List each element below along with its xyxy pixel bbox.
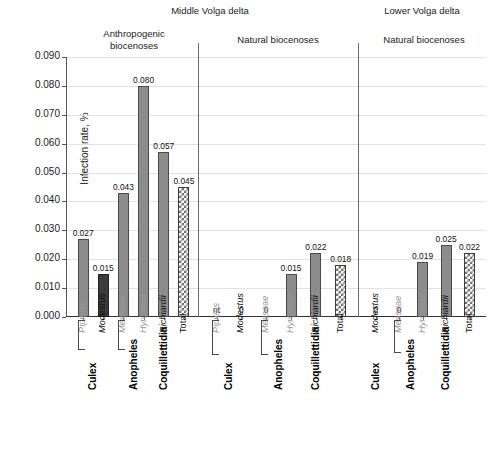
plot-area: Infection rate, % 0.0000.0100.0200.0300.… bbox=[66, 57, 486, 317]
genus-label: Culex bbox=[370, 363, 381, 390]
y-tick-label: 0.020 bbox=[35, 252, 60, 263]
y-tick-mark bbox=[62, 317, 66, 318]
genus-bracket bbox=[394, 320, 401, 353]
bar-value-label: 0.057 bbox=[153, 141, 174, 151]
genus-label: Coquillettidia bbox=[440, 327, 451, 390]
panel-title-line-1: Anthropogenic bbox=[78, 28, 190, 40]
bar-value-label: 0.015 bbox=[281, 263, 302, 273]
bar-value-label: 0.019 bbox=[412, 251, 433, 261]
gridline bbox=[67, 173, 486, 174]
genus-label: Culex bbox=[223, 363, 234, 390]
y-tick-label: 0.000 bbox=[35, 310, 60, 321]
genus-label: Coquillettidia bbox=[158, 327, 169, 390]
y-tick-label: 0.090 bbox=[35, 50, 60, 61]
y-tick-mark bbox=[62, 115, 66, 116]
x-category-label: Total bbox=[178, 314, 188, 333]
y-tick-label: 0.060 bbox=[35, 137, 60, 148]
gridline bbox=[67, 230, 486, 231]
x-category-label: Hyrcanus bbox=[285, 294, 295, 333]
x-category-label: Total bbox=[464, 314, 474, 333]
gridline bbox=[67, 115, 486, 116]
genus-label: Culex bbox=[87, 363, 98, 390]
gridline bbox=[67, 144, 486, 145]
y-tick-mark bbox=[62, 86, 66, 87]
panel-title-natural-biocenoses-lower: Natural biocenoses bbox=[362, 34, 486, 46]
bar-value-label: 0.022 bbox=[459, 242, 480, 252]
bar-value-label: 0.018 bbox=[330, 254, 351, 264]
bar-value-label: 0.045 bbox=[173, 176, 194, 186]
y-tick-label: 0.050 bbox=[35, 166, 60, 177]
gridline bbox=[67, 57, 486, 58]
genus-bracket bbox=[261, 320, 268, 355]
x-category-label: Modestus bbox=[235, 293, 245, 333]
bar-value-label: 0.027 bbox=[73, 228, 94, 238]
y-axis-title: Infection rate, % bbox=[79, 79, 90, 219]
bar: 0.057 bbox=[158, 152, 169, 317]
bar-value-label: 0.025 bbox=[436, 234, 457, 244]
x-category-label: Modestus bbox=[97, 293, 107, 333]
genus-label: Anopheles bbox=[273, 339, 284, 390]
region-title-lower-volga-delta: Lower Volga delta bbox=[358, 5, 486, 16]
infection-rate-bar-chart-figure: Middle Volga delta Lower Volga delta Ant… bbox=[0, 0, 492, 456]
x-category-label: Modestus bbox=[370, 293, 380, 333]
bar-value-label: 0.043 bbox=[113, 182, 134, 192]
y-tick-label: 0.040 bbox=[35, 194, 60, 205]
genus-label: Anopheles bbox=[405, 339, 416, 390]
x-category-label: Hyrcanus bbox=[138, 294, 148, 333]
y-tick-mark bbox=[62, 230, 66, 231]
y-tick-mark bbox=[62, 144, 66, 145]
y-tick-label: 0.070 bbox=[35, 108, 60, 119]
panel-title-natural-biocenoses-middle: Natural biocenoses bbox=[205, 34, 351, 46]
region-title-middle-volga-delta: Middle Volga delta bbox=[150, 5, 270, 16]
y-tick-label: 0.010 bbox=[35, 281, 60, 292]
panel-title-line-2: biocenoses bbox=[78, 40, 190, 52]
bar-value-label: 0.080 bbox=[133, 75, 154, 85]
gridline bbox=[67, 201, 486, 202]
genus-bracket bbox=[118, 320, 125, 350]
panel-divider-0 bbox=[198, 43, 199, 317]
panel-divider-1 bbox=[358, 43, 359, 317]
bar: 0.080 bbox=[138, 86, 149, 317]
y-tick-label: 0.080 bbox=[35, 79, 60, 90]
y-tick-mark bbox=[62, 173, 66, 174]
gridline bbox=[67, 86, 486, 87]
y-tick-mark bbox=[62, 259, 66, 260]
genus-label: Coquillettidia bbox=[310, 327, 321, 390]
y-tick-label: 0.030 bbox=[35, 223, 60, 234]
x-category-label: Total bbox=[335, 314, 345, 333]
y-tick-mark bbox=[62, 201, 66, 202]
bar: 0.022 bbox=[464, 253, 475, 317]
y-axis-line bbox=[66, 57, 67, 317]
x-category-label: Hyrcanus bbox=[417, 294, 427, 333]
y-tick-mark bbox=[62, 57, 66, 58]
panel-title-anthropogenic-biocenoses: Anthropogenic biocenoses bbox=[78, 28, 190, 52]
genus-bracket bbox=[212, 320, 219, 355]
y-tick-mark bbox=[62, 288, 66, 289]
bar: 0.018 bbox=[335, 265, 346, 317]
bar-value-label: 0.015 bbox=[93, 263, 114, 273]
bar-value-label: 0.022 bbox=[305, 242, 326, 252]
genus-bracket bbox=[78, 320, 85, 350]
bar: 0.045 bbox=[178, 187, 189, 317]
genus-label: Anopheles bbox=[128, 339, 139, 390]
